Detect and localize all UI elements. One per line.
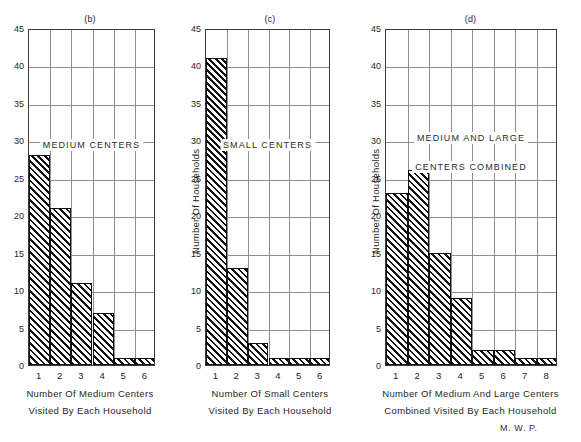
- x-axis-caption-line-2: Visited By Each Household: [180, 405, 360, 416]
- y-tick-label: 45: [371, 25, 381, 34]
- y-tick-label: 30: [191, 137, 201, 146]
- y-tick-label: 10: [14, 287, 24, 296]
- y-tick-label: 10: [371, 287, 381, 296]
- x-tick-label-3: 3: [436, 371, 441, 381]
- y-tick-label: 25: [14, 174, 24, 183]
- y-tick-label: 30: [371, 137, 381, 146]
- y-axis-title: Number Of Households: [190, 148, 201, 253]
- panel-d: (d) MEDIUM AND LARGECENTERS COMBINED0510…: [360, 0, 581, 442]
- panel-b: (b) MEDIUM CENTERS0510152025303540451234…: [0, 0, 180, 442]
- x-tick-label-6: 6: [501, 371, 506, 381]
- x-axis-caption-line-2: Visited By Each Household: [0, 405, 180, 416]
- x-tick-label-6: 6: [142, 371, 147, 381]
- x-tick-label-4: 4: [275, 371, 280, 381]
- y-tick-label: 40: [371, 62, 381, 71]
- panel-c: (c) SMALL CENTERS05101520253035404512345…: [180, 0, 360, 442]
- bar-1: [386, 193, 408, 365]
- plot-annotation-1: SMALL CENTERS: [220, 139, 315, 151]
- bar-3: [71, 283, 92, 365]
- y-tick-label: 20: [14, 212, 24, 221]
- y-tick-label: 35: [14, 99, 24, 108]
- y-tick-label: 45: [191, 25, 201, 34]
- bar-series: [206, 30, 329, 365]
- y-tick-label: 0: [19, 362, 24, 371]
- plot-area-b: [28, 29, 155, 366]
- bar-1: [29, 155, 50, 365]
- figure-signature: M. W. P.: [500, 423, 538, 433]
- x-tick-label-5: 5: [296, 371, 301, 381]
- y-tick-label: 5: [19, 324, 24, 333]
- y-tick-label: 40: [14, 62, 24, 71]
- y-tick-label: 5: [196, 324, 201, 333]
- x-axis-caption-line-1: Number Of Medium And Large Centers: [360, 388, 581, 399]
- y-tick-label: 45: [14, 25, 24, 34]
- bar-5: [472, 350, 494, 365]
- y-axis-title: Number Of Households: [370, 148, 381, 253]
- bar-2: [50, 208, 71, 365]
- bar-4: [93, 313, 114, 365]
- y-axis-ticks: 051015202530354045: [4, 29, 24, 366]
- x-tick-label-2: 2: [234, 371, 239, 381]
- x-tick-label-6: 6: [317, 371, 322, 381]
- y-tick-label: 40: [191, 62, 201, 71]
- bar-4: [269, 358, 290, 365]
- plot-annotation-1: MEDIUM CENTERS: [40, 139, 143, 151]
- x-axis-caption-line-2: Combined Visited By Each Household: [360, 405, 581, 416]
- panel-d-title: (d): [360, 14, 581, 24]
- x-tick-label-2: 2: [415, 371, 420, 381]
- y-tick-label: 35: [371, 99, 381, 108]
- x-tick-label-8: 8: [544, 371, 549, 381]
- x-axis-caption-line-1: Number Of Medium Centers: [0, 388, 180, 399]
- bar-2: [227, 268, 248, 365]
- bar-1: [206, 58, 227, 365]
- x-tick-label-3: 3: [254, 371, 259, 381]
- bar-5: [289, 358, 310, 365]
- x-tick-label-2: 2: [57, 371, 62, 381]
- bar-2: [408, 170, 430, 365]
- x-axis-caption-line-1: Number Of Small Centers: [180, 388, 360, 399]
- x-tick-label-4: 4: [458, 371, 463, 381]
- y-tick-label: 5: [376, 324, 381, 333]
- plot-annotation-2: CENTERS COMBINED: [412, 161, 530, 173]
- bar-6: [135, 358, 155, 365]
- bar-3: [429, 253, 451, 365]
- y-tick-label: 10: [191, 287, 201, 296]
- y-tick-label: 30: [14, 137, 24, 146]
- bar-6: [310, 358, 330, 365]
- x-tick-label-5: 5: [121, 371, 126, 381]
- plot-area-c: [205, 29, 330, 366]
- x-tick-label-1: 1: [393, 371, 398, 381]
- plot-area-d: [385, 29, 557, 366]
- bar-series: [386, 30, 556, 365]
- y-tick-label: 0: [196, 362, 201, 371]
- bar-3: [248, 343, 269, 365]
- x-tick-label-1: 1: [213, 371, 218, 381]
- x-tick-label-4: 4: [99, 371, 104, 381]
- y-tick-label: 0: [376, 362, 381, 371]
- bar-5: [114, 358, 135, 365]
- x-tick-label-7: 7: [522, 371, 527, 381]
- y-tick-label: 15: [14, 249, 24, 258]
- plot-annotation-1: MEDIUM AND LARGE: [414, 132, 528, 144]
- x-tick-label-3: 3: [78, 371, 83, 381]
- bar-6: [494, 350, 516, 365]
- bar-4: [451, 298, 473, 365]
- bar-8: [537, 358, 558, 365]
- bar-series: [29, 30, 154, 365]
- histogram-figure: (b) MEDIUM CENTERS0510152025303540451234…: [0, 0, 581, 442]
- bar-7: [515, 358, 537, 365]
- panel-b-title: (b): [0, 14, 180, 24]
- x-tick-label-1: 1: [36, 371, 41, 381]
- panel-c-title: (c): [180, 14, 360, 24]
- x-tick-label-5: 5: [479, 371, 484, 381]
- y-tick-label: 35: [191, 99, 201, 108]
